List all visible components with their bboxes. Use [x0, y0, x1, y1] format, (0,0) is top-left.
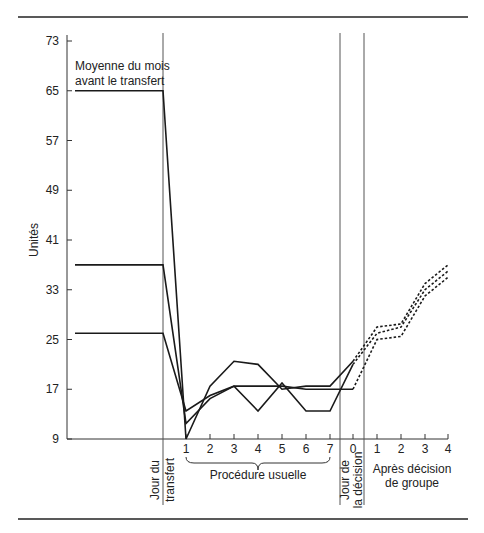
- x-tick-label: 5: [279, 442, 286, 456]
- after-decision-label-2: de groupe: [385, 476, 439, 490]
- x-tick-label: 7: [327, 442, 334, 456]
- y-tick-label: 33: [46, 283, 60, 297]
- x-tick-label: 2: [398, 442, 405, 456]
- transfer-day-label-1: Jour du: [148, 460, 162, 500]
- transfer-day-label-2: transfert: [163, 457, 177, 502]
- x-tick-label: 3: [422, 442, 429, 456]
- series-line-solid: [75, 265, 353, 424]
- series-line-dashed: [353, 277, 448, 389]
- after-decision-label-1: Après décision: [373, 462, 452, 476]
- baseline-label-1: Moyenne du mois: [75, 59, 170, 73]
- y-tick-label: 17: [46, 382, 60, 396]
- x-tick-label: 1: [183, 442, 190, 456]
- annotations: Moyenne du mois avant le transfert Unité…: [27, 59, 451, 508]
- y-tick-label: 41: [46, 233, 60, 247]
- y-tick-label: 65: [46, 84, 60, 98]
- y-tick-label: 49: [46, 183, 60, 197]
- phase-dividers: [163, 33, 364, 505]
- data-series: [75, 91, 448, 439]
- series-line-solid: [75, 333, 353, 411]
- line-chart: 91725334149576573 123456701234 Moyenne d…: [0, 0, 484, 533]
- y-axis: 91725334149576573: [46, 34, 72, 446]
- y-tick-label: 57: [46, 134, 60, 148]
- y-tick-label: 25: [46, 333, 60, 347]
- x-tick-label: 2: [207, 442, 214, 456]
- x-tick-label: 4: [445, 442, 452, 456]
- decision-day-label-2: la décision: [351, 452, 365, 509]
- y-tick-label: 73: [46, 34, 60, 48]
- baseline-label-2: avant le transfert: [75, 74, 165, 88]
- usual-procedure-label: Procédure usuelle: [210, 468, 307, 482]
- x-tick-label: 6: [303, 442, 310, 456]
- x-tick-label: 1: [374, 442, 381, 456]
- x-tick-label: 3: [231, 442, 238, 456]
- decision-day-label-1: Jour de: [338, 460, 352, 500]
- series-line-dashed: [353, 271, 448, 364]
- x-tick-label: 4: [255, 442, 262, 456]
- y-axis-label: Unités: [27, 223, 41, 257]
- y-tick-label: 9: [52, 432, 59, 446]
